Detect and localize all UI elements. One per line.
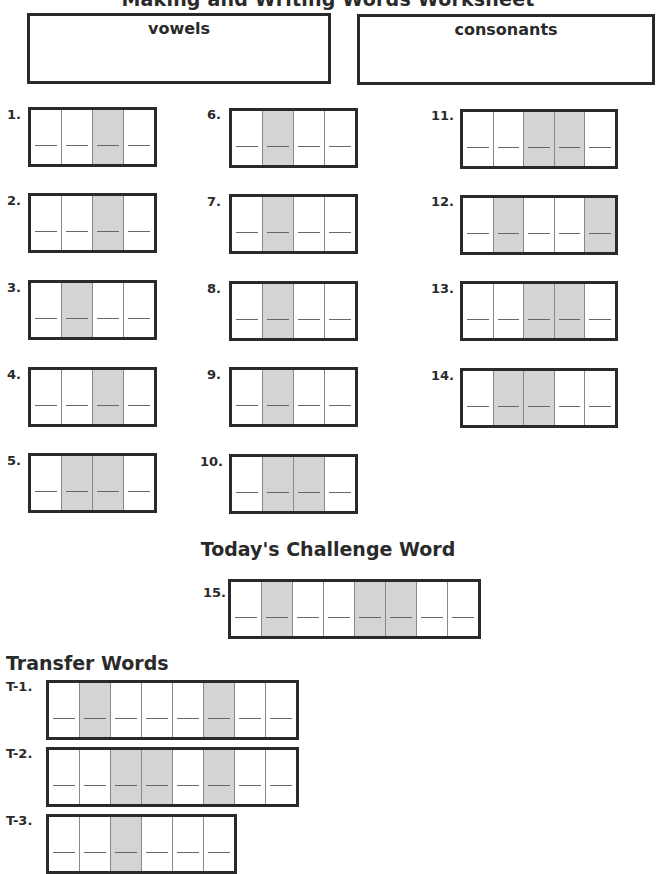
letter-cell[interactable] [448,582,478,636]
word-box-6[interactable] [229,108,358,168]
vowel-letter-cell[interactable] [93,456,124,510]
letter-cell[interactable] [294,197,325,251]
vowel-letter-cell[interactable] [204,750,235,804]
letter-cell[interactable] [235,683,266,737]
letter-cell[interactable] [124,456,154,510]
vowel-letter-cell[interactable] [355,582,386,636]
word-box-5[interactable] [28,453,157,513]
word-box-2[interactable] [28,193,157,253]
vowel-letter-cell[interactable] [111,817,142,871]
word-box-11[interactable] [460,109,618,169]
letter-cell[interactable] [232,457,263,511]
vowel-letter-cell[interactable] [524,112,555,166]
letter-cell[interactable] [325,457,355,511]
vowel-letter-cell[interactable] [62,456,93,510]
word-box-8[interactable] [229,281,358,341]
transfer-word-box-2[interactable] [46,747,299,807]
vowel-letter-cell[interactable] [263,111,294,165]
vowel-letter-cell[interactable] [386,582,417,636]
vowel-letter-cell[interactable] [555,112,586,166]
letter-cell[interactable] [31,196,62,250]
vowels-box[interactable]: vowels [27,13,331,84]
word-box-1[interactable] [28,107,157,167]
letter-cell[interactable] [555,371,586,425]
vowel-letter-cell[interactable] [524,371,555,425]
letter-cell[interactable] [231,582,262,636]
vowel-letter-cell[interactable] [262,582,293,636]
letter-cell[interactable] [124,196,154,250]
letter-cell[interactable] [463,198,494,252]
word-box-9[interactable] [229,367,358,427]
letter-cell[interactable] [325,111,355,165]
letter-cell[interactable] [494,112,525,166]
letter-cell[interactable] [555,198,586,252]
letter-cell[interactable] [585,371,615,425]
letter-cell[interactable] [111,683,142,737]
word-box-3[interactable] [28,280,157,340]
vowel-letter-cell[interactable] [93,110,124,164]
word-box-12[interactable] [460,195,618,255]
vowel-letter-cell[interactable] [263,457,294,511]
transfer-word-box-3[interactable] [46,814,237,874]
letter-cell[interactable] [585,112,615,166]
letter-cell[interactable] [232,284,263,338]
vowel-letter-cell[interactable] [263,370,294,424]
vowel-letter-cell[interactable] [93,196,124,250]
letter-cell[interactable] [173,817,204,871]
challenge-word-box[interactable] [228,579,481,639]
vowel-letter-cell[interactable] [294,457,325,511]
word-box-14[interactable] [460,368,618,428]
vowel-letter-cell[interactable] [585,198,615,252]
letter-cell[interactable] [494,284,525,338]
letter-cell[interactable] [62,196,93,250]
letter-cell[interactable] [463,112,494,166]
letter-cell[interactable] [463,371,494,425]
vowel-letter-cell[interactable] [80,683,111,737]
letter-cell[interactable] [124,370,154,424]
word-box-7[interactable] [229,194,358,254]
letter-cell[interactable] [232,370,263,424]
letter-cell[interactable] [294,111,325,165]
letter-cell[interactable] [294,284,325,338]
letter-cell[interactable] [325,370,355,424]
letter-cell[interactable] [93,283,124,337]
letter-cell[interactable] [293,582,324,636]
letter-cell[interactable] [124,283,154,337]
letter-cell[interactable] [324,582,355,636]
vowel-letter-cell[interactable] [494,371,525,425]
letter-cell[interactable] [31,110,62,164]
letter-cell[interactable] [524,198,555,252]
letter-cell[interactable] [232,197,263,251]
letter-cell[interactable] [266,750,296,804]
vowel-letter-cell[interactable] [263,284,294,338]
consonants-box[interactable]: consonants [357,14,655,85]
letter-cell[interactable] [31,456,62,510]
letter-cell[interactable] [173,750,204,804]
letter-cell[interactable] [325,197,355,251]
letter-cell[interactable] [266,683,296,737]
letter-cell[interactable] [49,683,80,737]
letter-cell[interactable] [49,750,80,804]
letter-cell[interactable] [142,683,173,737]
transfer-word-box-1[interactable] [46,680,299,740]
letter-cell[interactable] [80,750,111,804]
letter-cell[interactable] [31,370,62,424]
letter-cell[interactable] [173,683,204,737]
letter-cell[interactable] [49,817,80,871]
word-box-4[interactable] [28,367,157,427]
vowel-letter-cell[interactable] [142,750,173,804]
letter-cell[interactable] [585,284,615,338]
word-box-13[interactable] [460,281,618,341]
letter-cell[interactable] [80,817,111,871]
vowel-letter-cell[interactable] [62,283,93,337]
letter-cell[interactable] [235,750,266,804]
letter-cell[interactable] [294,370,325,424]
vowel-letter-cell[interactable] [524,284,555,338]
letter-cell[interactable] [417,582,448,636]
vowel-letter-cell[interactable] [494,198,525,252]
letter-cell[interactable] [232,111,263,165]
letter-cell[interactable] [325,284,355,338]
vowel-letter-cell[interactable] [204,683,235,737]
letter-cell[interactable] [204,817,234,871]
letter-cell[interactable] [142,817,173,871]
